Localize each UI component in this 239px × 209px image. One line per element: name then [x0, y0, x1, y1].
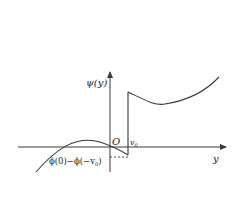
right-curve — [128, 77, 219, 104]
jump-point-label: v0 — [130, 138, 139, 148]
origin-label: O — [112, 136, 120, 147]
psi-function-graph: ψ(y) y O v0 ϕ(0)−ϕ(−v0) — [0, 0, 239, 209]
horizontal-axis-label: y — [212, 153, 219, 164]
vertical-axis-label: ψ(y) — [86, 77, 107, 88]
gap-label: ϕ(0)−ϕ(−v0) — [49, 156, 102, 167]
